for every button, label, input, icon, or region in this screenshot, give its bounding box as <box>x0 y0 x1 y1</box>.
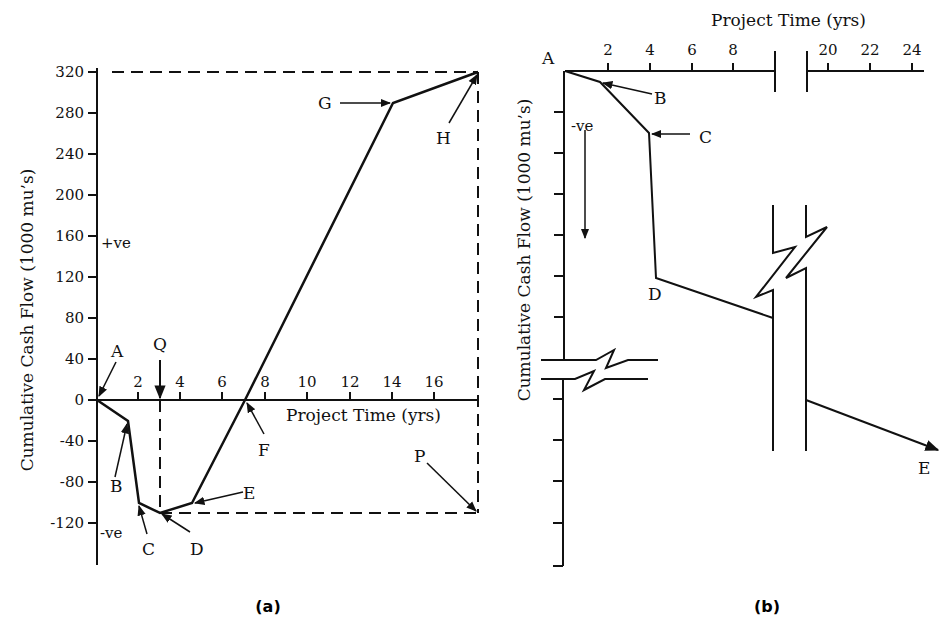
point-label-b: B <box>110 476 123 496</box>
point-label-q: Q <box>153 334 167 354</box>
point-label-g: G <box>318 93 332 113</box>
xtick: 22 <box>860 41 879 59</box>
ytick: 240 <box>55 145 84 163</box>
xtick: 2 <box>603 41 613 59</box>
panel-a <box>88 68 478 565</box>
x-ticks-a <box>138 392 434 400</box>
point-label-d-b: D <box>648 284 662 304</box>
ytick: 200 <box>55 186 84 204</box>
xtick: 16 <box>424 373 443 391</box>
point-label-d: D <box>190 539 204 559</box>
panel-a-text: 320 280 240 200 160 120 80 40 0 -40 -80 … <box>17 63 451 616</box>
xtick: 12 <box>340 373 359 391</box>
ytick: -120 <box>50 514 84 532</box>
point-label-e-b: E <box>918 458 930 478</box>
xtick: 2 <box>133 373 143 391</box>
xtick: 24 <box>902 41 921 59</box>
caption-b: (b) <box>754 597 780 616</box>
ytick: -40 <box>60 432 84 450</box>
xtick: 8 <box>728 41 738 59</box>
point-label-f: F <box>258 440 270 460</box>
ytick: 320 <box>55 63 84 81</box>
point-label-a-b: A <box>541 48 555 68</box>
panel-b-text: 2 4 6 8 20 22 24 Project Time (yrs) Cumu… <box>514 10 930 616</box>
xtick: 8 <box>260 373 270 391</box>
xtick: 4 <box>645 41 655 59</box>
ytick: 280 <box>55 104 84 122</box>
cash-flow-curve-b <box>565 71 773 318</box>
point-label-b-b: B <box>654 88 667 108</box>
panel-b <box>541 51 938 566</box>
positive-label: +ve <box>101 234 131 252</box>
xtick: 10 <box>297 373 316 391</box>
xtick: 20 <box>818 41 837 59</box>
x-axis-label-a: Project Time (yrs) <box>286 405 441 425</box>
y-axis-label-b: Cumulative Cash Flow (1000 mu’s) <box>514 99 534 402</box>
x-axis-label-b: Project Time (yrs) <box>711 10 866 30</box>
ytick: 0 <box>74 391 84 409</box>
point-label-e: E <box>243 483 255 503</box>
point-label-a: A <box>110 341 124 361</box>
figure: 320 280 240 200 160 120 80 40 0 -40 -80 … <box>0 0 952 639</box>
xtick: 14 <box>382 373 401 391</box>
ytick: -80 <box>60 473 84 491</box>
ytick: 120 <box>55 268 84 286</box>
xtick: 6 <box>217 373 227 391</box>
point-label-c: C <box>142 539 155 559</box>
y-ticks-a <box>88 72 97 523</box>
ytick: 80 <box>65 309 84 327</box>
caption-a: (a) <box>255 597 280 616</box>
xtick: 6 <box>687 41 697 59</box>
ytick: 160 <box>55 227 84 245</box>
ytick: 40 <box>65 350 84 368</box>
xtick: 4 <box>175 373 185 391</box>
negative-label-b: -ve <box>571 117 594 135</box>
point-label-c-b: C <box>699 127 712 147</box>
point-label-h: H <box>436 128 451 148</box>
negative-label: -ve <box>100 524 123 542</box>
point-label-p: P <box>414 446 425 466</box>
y-axis-label-a: Cumulative Cash Flow (1000 mu’s) <box>17 169 37 472</box>
